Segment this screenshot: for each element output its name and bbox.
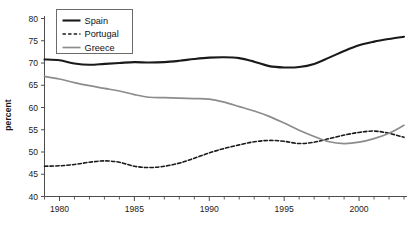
y-axis-tick-label: 80 — [28, 14, 38, 24]
y-axis-tick-label: 40 — [28, 192, 38, 202]
legend-label-spain: Spain — [85, 16, 109, 26]
y-axis-tick-label: 65 — [28, 80, 38, 90]
x-axis-tick-label: 2000 — [350, 204, 369, 214]
x-axis: 19801985199019952000 — [45, 197, 408, 215]
chart-plot-area: 404550556065707580 19801985199019952000 … — [0, 0, 411, 229]
chart-container: percent 404550556065707580 1980198519901… — [0, 0, 411, 229]
y-axis-tick-label: 60 — [28, 103, 38, 113]
y-axis-tick-label: 75 — [28, 36, 38, 46]
legend-label-greece: Greece — [85, 43, 115, 53]
y-axis: 404550556065707580 — [28, 14, 44, 202]
x-axis-tick-label: 1995 — [275, 204, 294, 214]
y-axis-tick-label: 50 — [28, 147, 38, 157]
x-axis-tick-label: 1990 — [200, 204, 219, 214]
data-series-group — [45, 37, 405, 168]
x-axis-tick-label: 1980 — [50, 204, 69, 214]
series-line-portugal — [45, 131, 405, 168]
legend-label-portugal: Portugal — [85, 29, 119, 39]
y-axis-tick-label: 55 — [28, 125, 38, 135]
x-axis-tick-label: 1985 — [125, 204, 144, 214]
chart-legend: SpainPortugalGreece — [57, 10, 133, 54]
y-axis-tick-label: 45 — [28, 169, 38, 179]
y-axis-tick-label: 70 — [28, 58, 38, 68]
